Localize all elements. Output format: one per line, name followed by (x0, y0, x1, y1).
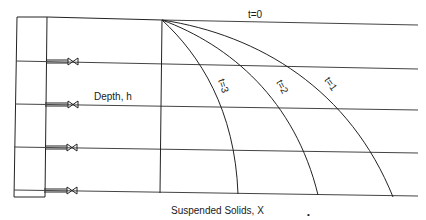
curve-t1 (162, 20, 393, 197)
label-t3: t=3 (216, 77, 231, 94)
valve-icon (68, 58, 78, 65)
label-t1: t=1 (322, 75, 339, 93)
label-t0: t=0 (248, 9, 263, 20)
x-axis-label: Suspended Solids, X (171, 205, 264, 216)
depth-lines (14, 20, 418, 196)
settling-diagram: t=0 t=1 t=2 t=3 Depth, h Suspended Solid… (0, 0, 426, 220)
label-t2: t=2 (274, 78, 291, 96)
depth-label: Depth, h (94, 91, 132, 102)
settling-column (14, 17, 162, 197)
x-axis-subscript: • (307, 210, 310, 219)
